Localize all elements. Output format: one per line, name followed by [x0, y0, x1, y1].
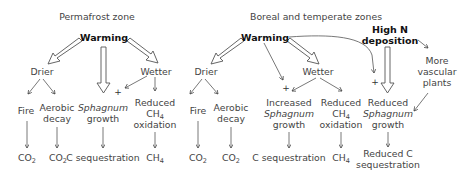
- arrow-vascular-reduced: [414, 93, 428, 111]
- hollow-arrow-warming-wetter: [127, 38, 158, 63]
- ch4-label-boreal: CH4: [332, 152, 350, 163]
- aerobic-decay-label: Aerobicdecay: [40, 102, 75, 124]
- warming-label: Warming: [80, 32, 128, 43]
- fire-label: Fire: [18, 105, 35, 116]
- sphagnum-growth-label: Sphagnumgrowth: [78, 102, 128, 124]
- co2-fire-label: CO2: [18, 152, 36, 163]
- drier-label: Drier: [30, 66, 53, 77]
- warming-label-boreal: Warming: [241, 32, 289, 43]
- arrow-wetter-sphagnum: [125, 76, 147, 88]
- co2-fire-label-boreal: CO2: [189, 152, 207, 163]
- boreal-zone-title: Boreal and temperate zones: [250, 11, 382, 22]
- fire-label-boreal: Fire: [190, 105, 207, 116]
- permafrost-zone-title: Permafrost zone: [59, 11, 135, 22]
- arrow-drier-fire-boreal: [190, 79, 202, 94]
- arrow-drier-aerobic-boreal: [205, 79, 218, 94]
- hollow-arrow-n-reduced-sphagnum: [381, 47, 394, 93]
- arrow-wetter-reduced-ch4: [320, 78, 342, 91]
- reduced-ch4-oxidation-label: ReducedCH4oxidation: [134, 97, 177, 130]
- aerobic-decay-label-boreal: Aerobicdecay: [214, 102, 249, 124]
- hollow-arrow-warming-drier-boreal: [211, 38, 244, 64]
- arrow-drier-aerobic: [43, 79, 55, 94]
- plus-sign: +: [114, 87, 122, 97]
- more-vascular-plants-label: Morevascularplants: [417, 55, 456, 88]
- high-n-deposition-label: High Ndeposition: [362, 24, 419, 46]
- arrow-drier-fire: [28, 79, 40, 94]
- c-sequestration-label: C sequestration: [66, 152, 139, 163]
- hollow-arrow-warming-drier: [48, 38, 82, 64]
- wetter-label-boreal: Wetter: [302, 66, 333, 77]
- plus-sign-reduced: +: [371, 77, 379, 87]
- ch4-label: CH4: [146, 152, 164, 163]
- arrow-n-more-vascular: [418, 40, 428, 48]
- arrow-wetter-increased: [292, 78, 316, 91]
- reduced-c-sequestration-label: Reduced Csequestration: [356, 148, 420, 170]
- co2-decay-label: CO2: [49, 152, 67, 163]
- hollow-arrow-warming-sphagnum: [97, 47, 110, 93]
- arrow-warming-increased: [264, 43, 283, 80]
- plus-sign-increased: +: [282, 83, 290, 93]
- reduced-sphagnum-growth-label: ReducedSphagnumgrowth: [363, 97, 413, 130]
- drier-label-boreal: Drier: [194, 66, 217, 77]
- hollow-arrow-warming-wetter-boreal: [287, 38, 319, 64]
- wetter-label: Wetter: [140, 66, 171, 77]
- reduced-ch4-oxidation-label-boreal: ReducedCH4oxidation: [320, 97, 363, 130]
- co2-decay-label-boreal: CO2: [222, 152, 240, 163]
- c-sequestration-label-boreal: C sequestration: [252, 152, 325, 163]
- increased-sphagnum-growth-label: IncreasedSphagnumgrowth: [264, 97, 314, 130]
